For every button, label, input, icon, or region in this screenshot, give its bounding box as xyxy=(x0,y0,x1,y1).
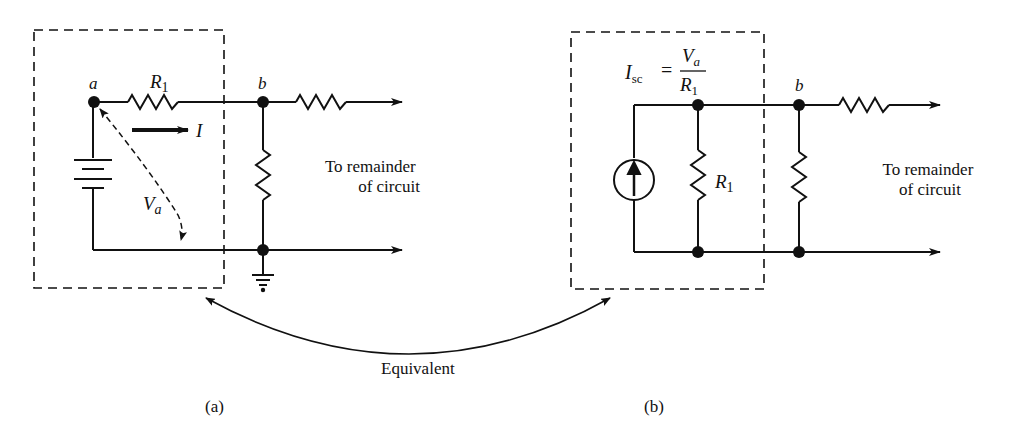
caption-b: (b) xyxy=(644,397,664,416)
svg-text:R1: R1 xyxy=(679,74,698,98)
node-b-dot xyxy=(257,96,269,108)
svg-text:Va: Va xyxy=(682,45,701,69)
resistor-shunt xyxy=(256,150,270,200)
resistor-series xyxy=(296,95,346,109)
node-top-dot xyxy=(692,99,704,111)
node-b-dot-b xyxy=(793,99,805,111)
r1-label: R1 xyxy=(149,71,169,95)
node-a-label: a xyxy=(89,74,98,93)
resistor-r1-b xyxy=(691,150,705,200)
node-bottom-b-dot xyxy=(793,246,805,258)
caption-a: (a) xyxy=(205,397,224,416)
ground-icon xyxy=(252,275,274,291)
svg-text:=: = xyxy=(661,59,672,81)
resistor-r1 xyxy=(128,95,178,109)
node-bottom-dot xyxy=(692,246,704,258)
svg-text:Isc: Isc xyxy=(624,61,643,86)
isc-formula: Isc = Va R1 xyxy=(624,45,706,98)
resistor-series-b xyxy=(839,98,889,112)
resistor-shunt-b xyxy=(792,152,806,202)
remainder-label-a: To remainder of circuit xyxy=(325,157,420,196)
equivalent-label: Equivalent xyxy=(381,359,455,378)
equivalence-arrow-icon xyxy=(206,298,610,354)
remainder-label-b: To remainder of circuit xyxy=(882,160,977,199)
node-b-label-b: b xyxy=(795,76,804,95)
current-label: I xyxy=(195,120,204,141)
voltage-label: Va xyxy=(143,193,162,217)
r1-label-b: R1 xyxy=(714,171,734,195)
ground-node-dot xyxy=(257,244,269,256)
circuit-diagram: a R1 b I Va To remainder of circuit (a) xyxy=(0,0,1016,434)
battery-icon xyxy=(74,160,112,188)
node-b-label: b xyxy=(258,74,267,93)
node-a-dot xyxy=(88,96,100,108)
